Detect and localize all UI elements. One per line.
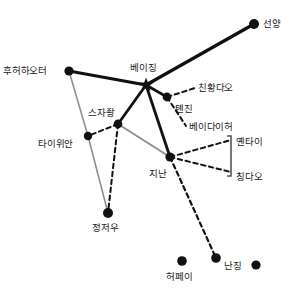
node-label-hefei: 허페이	[166, 272, 192, 282]
node-label-yantai: 옌타이	[236, 137, 262, 147]
node-marker-hohhot[interactable]	[64, 66, 73, 75]
node-marker-zhengzhou[interactable]	[103, 208, 113, 218]
node-label-jinan: 지난	[149, 169, 167, 179]
edge-shijiazhuang-to-zhengzhou	[108, 124, 118, 213]
edge-shijiazhuang-to-jinan	[118, 124, 170, 157]
edge-beijing-to-shenyang	[146, 24, 254, 85]
edge-jinan-to-nanjing	[170, 157, 216, 258]
edge-hohhot-to-taiyuan	[69, 71, 88, 136]
node-marker-jinan[interactable]	[165, 152, 174, 161]
node-label-zhengzhou: 정저우	[92, 223, 118, 233]
edge-tianjin-to-qinhuangdao	[167, 88, 195, 97]
node-label-qingdao: 칭다오	[236, 172, 262, 182]
city-network-diagram: 선양후허하오터베이징톈진친황다오베이다이허스자좡타이위안지난옌타이칭다오정저우허…	[0, 0, 295, 305]
node-label-beidaihe: 베이다이허	[189, 122, 233, 132]
node-label-nanjing: 난징	[224, 261, 242, 271]
node-label-hohhot: 후허하오터	[3, 66, 47, 76]
edge-jinan-to-qingdao	[170, 157, 231, 172]
brackets-layer	[227, 136, 231, 176]
node-label-tianjin: 톈진	[175, 104, 193, 114]
node-marker-nanjing[interactable]	[211, 253, 221, 263]
node-marker-shijiazhuang[interactable]	[114, 120, 123, 129]
node-label-shenyang: 선양	[263, 19, 281, 29]
node-label-qinhuangdao: 친황다오	[198, 83, 233, 93]
graph-canvas	[0, 0, 295, 305]
node-marker-shenyang[interactable]	[249, 19, 259, 29]
node-marker-hefei[interactable]	[177, 256, 187, 266]
edge-shijiazhuang-to-taiyuan	[88, 124, 118, 136]
node-label-shijiazhuang: 스자좡	[88, 108, 114, 118]
node-label-beijing: 베이징	[130, 63, 156, 73]
edge-taiyuan-to-zhengzhou	[88, 136, 108, 213]
node-marker-taiyuan[interactable]	[84, 132, 92, 140]
edge-beijing-to-hohhot	[69, 71, 146, 85]
edge-jinan-to-yantai	[170, 140, 231, 157]
node-marker-unlabeled_se[interactable]	[251, 260, 260, 269]
node-marker-tianjin[interactable]	[163, 93, 172, 102]
node-label-taiyuan: 타이위안	[38, 139, 73, 149]
bracket-shandong-bracket	[227, 136, 231, 176]
